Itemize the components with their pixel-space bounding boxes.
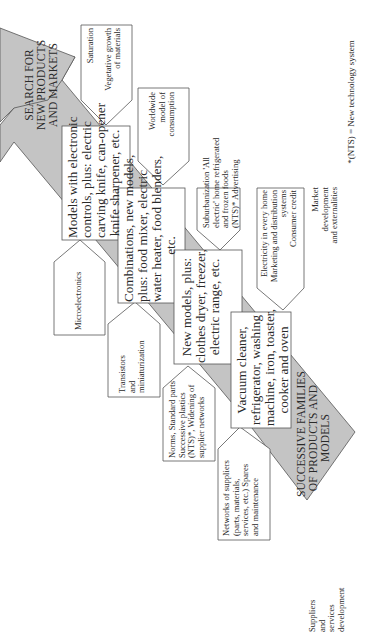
market-box-saturation: Saturation Vegetative growth of material…: [86, 28, 123, 100]
supplier-column-label: Suppliers and services development: [308, 572, 346, 632]
market-box-electricity: Electricity in every home Marketing and …: [260, 190, 298, 286]
market-box-worldwide: Worldwide model of consumption: [148, 92, 177, 162]
market-box-suburbanization: Suburbanization 'All electric' home refr…: [202, 188, 240, 228]
technology-box-microelectronics: Microelectronics: [74, 268, 84, 330]
product-box-vacuum-cleaner: Vacuum cleaner, refrigerator, washing ma…: [235, 314, 291, 426]
product-box-new-models: New models, plus: clothes dryer, freezer…: [180, 251, 222, 363]
product-box-electronic-models: Models with electronic controls, plus: e…: [66, 128, 122, 238]
technology-box-transistors: Transistors and miniaturization: [118, 333, 147, 393]
technology-box-networks: Networks of suppliers (parts, materials,…: [222, 452, 260, 536]
arrow-top-label: SEARCH FOR NEW PRODUCTS AND MARKETS: [23, 40, 59, 130]
arrow-bottom-label: SUCCESSIVE FAMILIES OF PRODUCTS AND MODE…: [295, 379, 331, 497]
product-box-combinations: Combinations, new models, plus: food mix…: [122, 189, 178, 302]
footnote: *(NTS) = New technology system: [347, 22, 357, 182]
market-column-label: Market development and externalities: [311, 187, 340, 245]
technology-box-norms: Norms, Standard parts Successive plastic…: [168, 388, 206, 458]
